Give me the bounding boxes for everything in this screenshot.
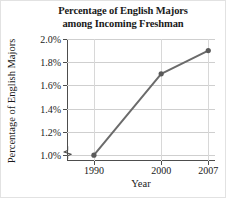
x-axis-title: Year <box>67 178 215 189</box>
data-series-layer <box>67 39 215 161</box>
chart-figure: Percentage of English Majors among Incom… <box>0 0 226 198</box>
y-tick-label: 2.0% <box>40 34 61 45</box>
y-tick-label: 1.0% <box>40 150 61 161</box>
y-axis-break-icon <box>63 146 73 159</box>
y-tick-label: 1.8% <box>40 57 61 68</box>
plot-area: 1.0%1.2%1.4%1.6%1.8%2.0% 199020002007 <box>67 39 215 161</box>
y-tick-label: 1.2% <box>40 126 61 137</box>
chart-title-line-1: Percentage of English Majors <box>27 5 219 18</box>
data-point-marker <box>206 48 211 53</box>
series-line <box>94 51 208 156</box>
x-tick-label: 2007 <box>198 165 218 176</box>
chart-title-line-2: among Incoming Freshman <box>27 18 219 31</box>
chart-title: Percentage of English Majors among Incom… <box>27 5 219 30</box>
y-axis-title-container: Percentage of English Majors <box>1 31 21 171</box>
data-point-marker <box>159 71 164 76</box>
y-tick-label: 1.6% <box>40 80 61 91</box>
x-tick-label: 2000 <box>151 165 171 176</box>
y-axis-title: Percentage of English Majors <box>6 39 17 164</box>
x-tick-label: 1990 <box>84 165 104 176</box>
y-tick-label: 1.4% <box>40 103 61 114</box>
data-point-marker <box>91 153 96 158</box>
